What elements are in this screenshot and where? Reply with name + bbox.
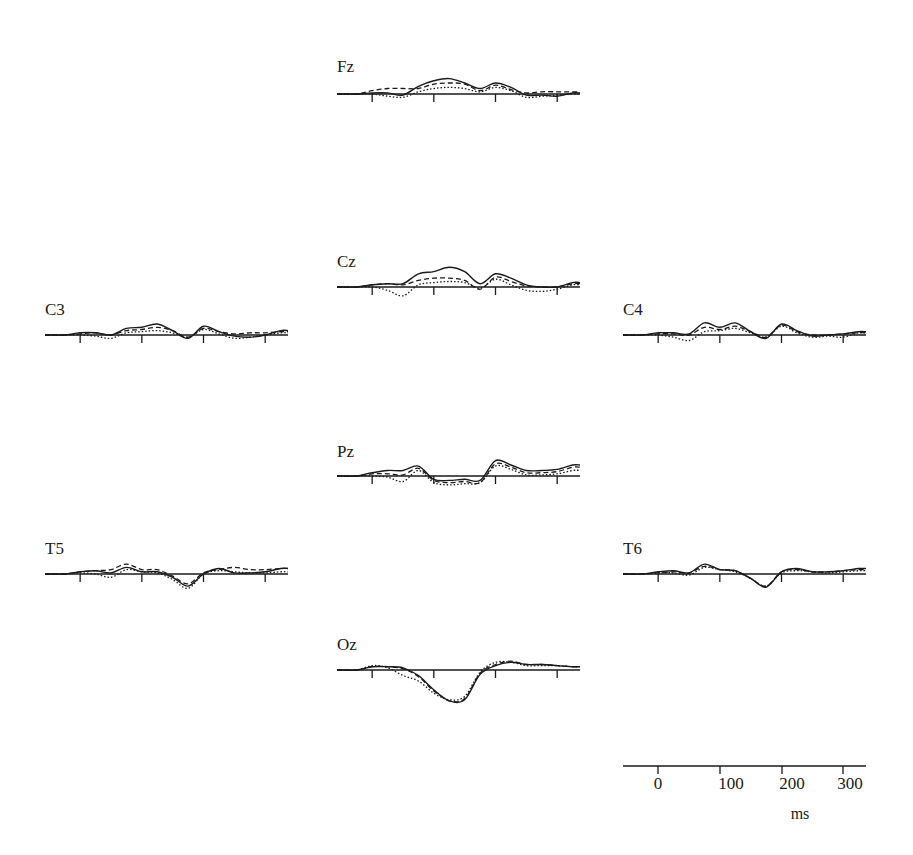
waveform-dashed xyxy=(623,566,866,586)
waveform-dotted xyxy=(337,465,580,484)
electrode-label-fz: Fz xyxy=(337,58,354,75)
waveform-solid xyxy=(337,662,580,702)
electrode-label-c3: C3 xyxy=(45,301,65,318)
waveform-solid xyxy=(337,460,580,482)
electrode-label-t5: T5 xyxy=(45,540,64,557)
scale-tick-label-100: 100 xyxy=(718,775,744,792)
waveform-dashed xyxy=(337,661,580,702)
time-scale-bar xyxy=(623,766,866,774)
electrode-label-pz: Pz xyxy=(337,443,354,460)
erp-panel-fz xyxy=(337,79,580,102)
erp-panel-t6 xyxy=(623,564,866,587)
erp-figure: Fz Cz C3 C4 Pz T5 T6 Oz 0 100 200 300 ms xyxy=(0,0,913,855)
electrode-label-oz: Oz xyxy=(337,636,357,653)
erp-panel-cz xyxy=(337,267,580,296)
electrode-label-cz: Cz xyxy=(337,253,356,270)
scale-tick-label-200: 200 xyxy=(779,775,805,792)
electrode-label-t6: T6 xyxy=(623,540,642,557)
scale-unit-label: ms xyxy=(791,806,810,822)
waveform-dashed xyxy=(337,463,580,484)
erp-panel-c3 xyxy=(45,324,288,343)
erp-panel-oz xyxy=(337,661,580,702)
scale-tick-label-0: 0 xyxy=(654,775,663,792)
scale-tick-label-300: 300 xyxy=(837,775,863,792)
erp-panel-c4 xyxy=(623,323,866,343)
waveform-dotted xyxy=(623,567,866,586)
erp-panel-t5 xyxy=(45,564,288,588)
electrode-label-c4: C4 xyxy=(623,301,643,318)
erp-plot-area xyxy=(0,0,913,855)
erp-panel-pz xyxy=(337,460,580,485)
